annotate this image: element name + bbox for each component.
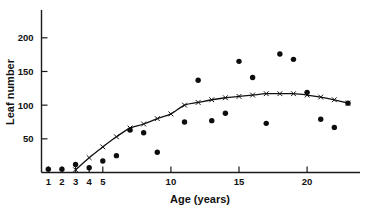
data-point [250, 75, 255, 80]
data-point [59, 166, 64, 171]
fitted-curve-series [73, 91, 350, 172]
data-point [318, 117, 323, 122]
data-point [127, 127, 132, 132]
x-axis-title: Age (years) [170, 193, 230, 205]
x-tick-label: 3 [73, 176, 78, 187]
data-point [100, 158, 105, 163]
y-tick-label: 150 [18, 66, 34, 77]
data-point [114, 153, 119, 158]
observed-data-points [46, 51, 351, 172]
x-tick-label: 10 [166, 176, 177, 187]
y-axis-ticks: 50100150200 [18, 32, 48, 144]
x-tick-label: 2 [59, 176, 64, 187]
data-point [291, 57, 296, 62]
fitted-curve-markers [73, 91, 350, 172]
data-point [209, 118, 214, 123]
data-point [86, 165, 91, 170]
data-point [332, 125, 337, 130]
y-tick-label: 100 [18, 100, 34, 111]
x-tick-label: 20 [302, 176, 313, 187]
chart-figure: 50100150200 12345101520 Age (years) Leaf… [0, 0, 368, 210]
x-tick-label: 5 [100, 176, 106, 187]
x-tick-label: 1 [46, 176, 52, 187]
data-point [345, 100, 350, 105]
y-tick-label: 50 [23, 133, 34, 144]
data-point [73, 162, 78, 167]
x-tick-label: 4 [87, 176, 93, 187]
data-point [304, 90, 309, 95]
data-point [182, 119, 187, 124]
y-tick-label: 200 [18, 32, 34, 43]
data-point [236, 59, 241, 64]
fitted-curve-line [76, 94, 348, 170]
data-point [264, 121, 269, 126]
data-point [277, 51, 282, 56]
data-point [195, 78, 200, 83]
data-point [141, 130, 146, 135]
data-point [46, 166, 51, 171]
x-axis-ticks: 12345101520 [46, 167, 313, 187]
data-point [223, 111, 228, 116]
x-tick-label: 15 [234, 176, 245, 187]
leaf-number-vs-age-scatter-chart: 50100150200 12345101520 Age (years) Leaf… [0, 0, 368, 210]
y-axis-title: Leaf number [4, 58, 16, 125]
data-point [155, 150, 160, 155]
chart-axes [42, 10, 361, 173]
